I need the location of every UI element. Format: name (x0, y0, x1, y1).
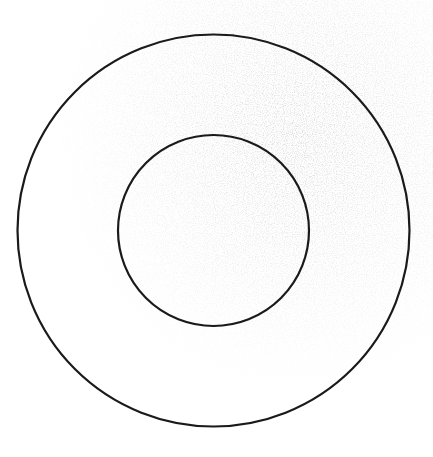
annulus-diagram (0, 0, 433, 457)
scan-speckle-texture (0, 0, 433, 457)
